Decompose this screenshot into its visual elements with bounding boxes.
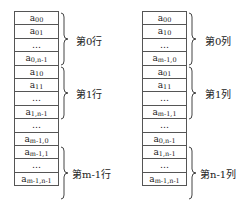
- group-label-col-1: 第1列: [205, 86, 231, 101]
- memory-cell: am-1,1: [15, 146, 58, 159]
- memory-cell: a10: [143, 25, 186, 38]
- brace-icon: [188, 66, 196, 120]
- memory-cell: a00: [15, 12, 58, 25]
- memory-cell: a11: [15, 79, 58, 92]
- brace-icon: [188, 146, 196, 200]
- memory-cell: a0,n-1: [143, 133, 186, 146]
- memory-cell: a1,n-1: [143, 146, 186, 159]
- brace-icon: [60, 66, 68, 120]
- memory-cell: am-1,n-1: [15, 173, 58, 186]
- group-label-row-m-1: 第m-1行: [72, 166, 111, 181]
- memory-cell: a10: [15, 66, 58, 79]
- memory-cell: am-1,0: [15, 133, 58, 146]
- group-label-row-1: 第1行: [76, 86, 102, 101]
- memory-cell: am-1,0: [143, 52, 186, 65]
- ellipsis-cell: …: [143, 92, 186, 105]
- column-major-storage-column: a00 a10 … am-1,0 a01 a11 … am-1,1 … a0,n…: [142, 11, 187, 186]
- memory-cell: a11: [143, 79, 186, 92]
- memory-cell: a0,n-1: [15, 52, 58, 65]
- ellipsis-cell: …: [143, 39, 186, 52]
- ellipsis-cell: …: [15, 39, 58, 52]
- memory-cell: a1,n-1: [15, 106, 58, 119]
- memory-cell: a01: [143, 66, 186, 79]
- memory-cell: am-1,n-1: [143, 173, 186, 186]
- row-major-storage-column: a00 a01 … a0,n-1 a10 a11 … a1,n-1 … am-1…: [14, 11, 59, 186]
- memory-cell: a00: [143, 12, 186, 25]
- group-label-col-n-1: 第n-1列: [200, 166, 236, 181]
- ellipsis-cell: …: [143, 159, 186, 172]
- group-label-row-0: 第0行: [76, 33, 102, 48]
- ellipsis-cell: …: [15, 159, 58, 172]
- brace-icon: [188, 12, 196, 66]
- brace-icon: [60, 12, 68, 66]
- memory-cell: am-1,1: [143, 106, 186, 119]
- group-label-col-0: 第0列: [205, 33, 231, 48]
- brace-icon: [60, 146, 68, 200]
- ellipsis-cell: …: [15, 92, 58, 105]
- ellipsis-cell: …: [15, 119, 58, 132]
- ellipsis-cell: …: [143, 119, 186, 132]
- memory-cell: a01: [15, 25, 58, 38]
